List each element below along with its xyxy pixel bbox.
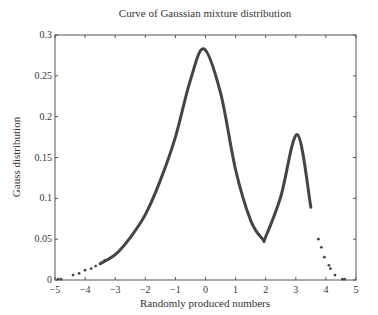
- data-marker: [94, 265, 97, 268]
- gaussian-mixture-chart: Curve of Gaussian mixture distribution −…: [0, 0, 378, 315]
- x-axis-label: Randomly produced numbers: [140, 297, 270, 309]
- x-tick-label: −4: [80, 284, 91, 295]
- y-tick-label: 0.25: [35, 70, 53, 81]
- y-tick-label: 0.15: [35, 152, 53, 163]
- x-tick-label: 3: [293, 284, 298, 295]
- data-marker: [99, 262, 102, 265]
- data-marker: [334, 274, 337, 277]
- tail-markers: [57, 238, 346, 281]
- x-tick-label: −1: [170, 284, 181, 295]
- x-tick-label: −2: [140, 284, 151, 295]
- data-marker: [103, 259, 106, 262]
- data-marker: [90, 267, 93, 270]
- data-marker: [72, 274, 75, 277]
- data-marker: [329, 267, 332, 270]
- x-tick-label: 0: [203, 284, 208, 295]
- x-tick-label: −5: [50, 284, 61, 295]
- data-marker: [84, 269, 87, 272]
- data-marker: [343, 278, 346, 281]
- data-marker: [60, 278, 63, 281]
- y-tick-label: 0.3: [40, 29, 53, 40]
- x-tick-label: 1: [233, 284, 238, 295]
- data-marker: [323, 256, 326, 259]
- data-marker: [328, 264, 331, 267]
- data-marker: [317, 238, 320, 241]
- y-tick-label: 0: [47, 274, 52, 285]
- data-marker: [320, 246, 323, 249]
- x-axis-ticks: −5−4−3−2−1012345: [50, 35, 359, 295]
- density-curve: [100, 49, 311, 264]
- plot-frame: [55, 35, 356, 280]
- y-tick-label: 0.2: [40, 111, 53, 122]
- chart-title: Curve of Gaussian mixture distribution: [119, 7, 292, 19]
- x-tick-label: 4: [323, 284, 328, 295]
- plot-area: −5−4−3−2−1012345 00.050.10.150.20.250.3: [35, 29, 359, 295]
- data-marker: [57, 278, 60, 281]
- x-tick-label: 5: [354, 284, 359, 295]
- data-marker: [78, 272, 81, 275]
- y-axis-label: Gauss distribution: [10, 116, 22, 197]
- x-tick-label: −3: [110, 284, 121, 295]
- x-tick-label: 2: [263, 284, 268, 295]
- y-tick-label: 0.1: [40, 192, 53, 203]
- y-tick-label: 0.05: [35, 233, 53, 244]
